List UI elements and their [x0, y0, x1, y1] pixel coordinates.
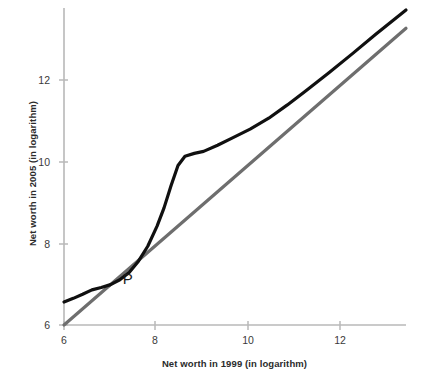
axis-lines [64, 8, 406, 325]
transition-curve-series [64, 10, 406, 302]
chart-figure: 12 10 8 6 6 8 10 12 Net worth in 2005 (i… [0, 0, 423, 386]
data-series-group [64, 10, 406, 325]
point-p-annotation: P [123, 271, 133, 286]
x-tick-label-12: 12 [327, 334, 353, 346]
plot-canvas [0, 0, 423, 386]
y-tick-label-6: 6 [24, 319, 50, 331]
x-tick-label-8: 8 [142, 334, 168, 346]
x-tick-label-6: 6 [51, 334, 77, 346]
y-axis-title: Net worth in 2005 (in logarithm) [27, 64, 38, 284]
x-tick-label-10: 10 [235, 334, 261, 346]
x-axis-title: Net worth in 1999 (in logarithm) [64, 358, 405, 369]
